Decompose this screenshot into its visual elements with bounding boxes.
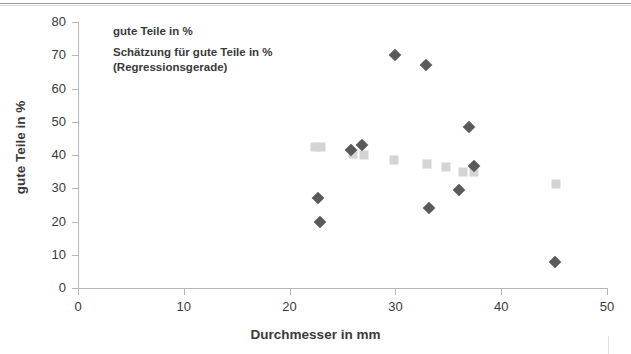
x-axis-title: Durchmesser in mm: [0, 327, 631, 342]
x-axis-tick-label: 30: [375, 300, 415, 313]
x-axis-tick: [501, 289, 502, 295]
y-axis-tick-label: 80: [16, 15, 66, 28]
x-axis-tick: [607, 289, 608, 295]
x-axis-tick-label: 40: [481, 300, 521, 313]
data-point-schaetzung: [390, 155, 399, 164]
data-point-schaetzung: [459, 167, 468, 176]
x-axis-tick: [290, 289, 291, 295]
data-point-schaetzung: [359, 151, 368, 160]
x-axis-line: [78, 288, 608, 289]
x-axis-tick: [184, 289, 185, 295]
plot-area: [78, 22, 607, 288]
x-axis-tick-label: 50: [587, 300, 627, 313]
y-axis-tick-label: 10: [16, 248, 66, 261]
y-axis-tick-label: 0: [16, 281, 66, 294]
top-divider-line-secondary: [0, 5, 631, 6]
y-axis-title: gute Teile in %: [13, 68, 28, 228]
data-point-schaetzung: [317, 143, 326, 152]
x-axis-tick-label: 10: [164, 300, 204, 313]
data-point-schaetzung: [423, 159, 432, 168]
scatter-chart: 01020304050607080 01020304050 gute Teile…: [0, 0, 631, 354]
top-divider-line: [0, 3, 631, 4]
y-axis-tick-label: 70: [16, 48, 66, 61]
x-axis-tick-label: 0: [58, 300, 98, 313]
x-axis-tick-label: 20: [270, 300, 310, 313]
x-axis-tick: [395, 289, 396, 295]
x-axis-tick: [78, 289, 79, 295]
data-point-schaetzung: [442, 163, 451, 172]
data-point-schaetzung: [552, 180, 561, 189]
